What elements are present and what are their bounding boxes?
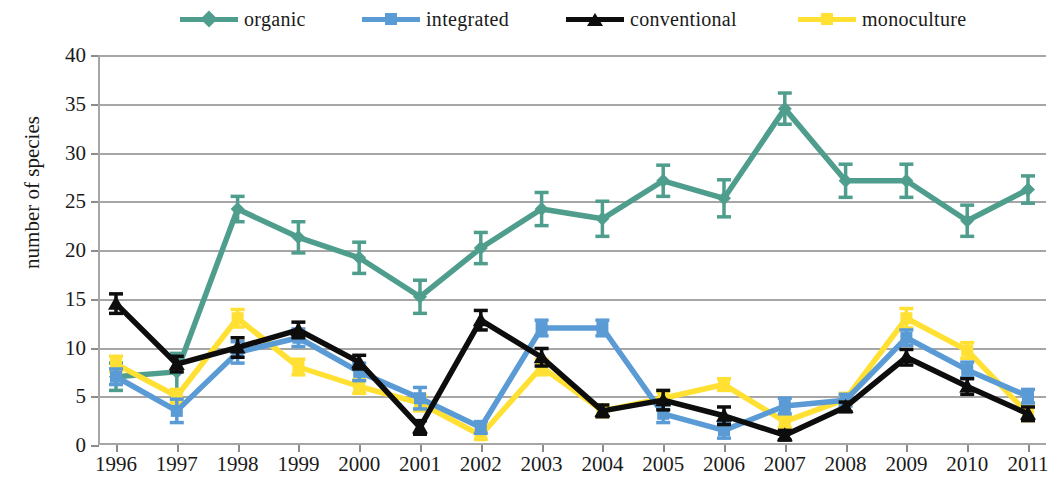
series-conventional xyxy=(108,294,1036,441)
x-axis-ticklabels: 1996199719981999200020012002200320042005… xyxy=(98,452,1046,478)
data-point-triangle xyxy=(473,312,489,326)
x-ticklabel: 2011 xyxy=(1007,452,1048,477)
x-tickmark xyxy=(1028,444,1030,452)
y-ticklabel: 20 xyxy=(65,238,86,263)
x-ticklabel: 2010 xyxy=(946,452,988,477)
data-point-square xyxy=(110,371,122,383)
y-ticklabel: 30 xyxy=(65,140,86,165)
y-ticklabel: 0 xyxy=(76,433,87,458)
x-ticklabel: 2008 xyxy=(825,452,867,477)
x-ticklabel: 2002 xyxy=(460,452,502,477)
legend-swatch-conventional-icon xyxy=(566,12,624,26)
series-integrated xyxy=(109,320,1035,438)
x-ticklabel: 1996 xyxy=(95,452,137,477)
legend-swatch-integrated-icon xyxy=(362,12,420,26)
x-ticklabel: 2001 xyxy=(399,452,441,477)
x-tickmark xyxy=(663,444,665,452)
data-point-square xyxy=(900,332,912,344)
x-ticklabel: 2009 xyxy=(885,452,927,477)
x-tickmark xyxy=(602,444,604,452)
data-point-square xyxy=(596,322,608,334)
series-layer xyxy=(98,55,1046,445)
y-ticklabel: 35 xyxy=(65,91,86,116)
legend-label-conventional: conventional xyxy=(630,8,737,31)
x-tickmark xyxy=(906,444,908,452)
legend-item-organic[interactable]: organic xyxy=(180,4,306,34)
legend-swatch-monoculture-icon xyxy=(798,12,856,26)
data-point-square xyxy=(232,312,244,324)
y-ticklabel: 15 xyxy=(65,286,86,311)
x-tickmark xyxy=(846,444,848,452)
series-line-conventional xyxy=(116,304,1028,436)
x-tickmark xyxy=(116,444,118,452)
x-tickmark xyxy=(542,444,544,452)
x-ticklabel: 2000 xyxy=(338,452,380,477)
x-tickmark xyxy=(481,444,483,452)
x-tickmark xyxy=(238,444,240,452)
legend-item-conventional[interactable]: conventional xyxy=(566,4,737,34)
data-point-square xyxy=(961,364,973,376)
data-point-square xyxy=(292,361,304,373)
y-ticklabel: 40 xyxy=(65,43,86,68)
x-ticklabel: 2004 xyxy=(581,452,623,477)
data-point-square xyxy=(779,400,791,412)
data-point-square xyxy=(536,322,548,334)
x-tickmark xyxy=(724,444,726,452)
x-tickmark xyxy=(298,444,300,452)
data-point-square xyxy=(900,312,912,324)
data-point-triangle xyxy=(898,349,914,363)
y-ticklabel: 10 xyxy=(65,335,86,360)
legend-item-integrated[interactable]: integrated xyxy=(362,4,509,34)
y-axis-ticklabels: 0510152025303540 xyxy=(40,40,92,450)
x-ticklabel: 1998 xyxy=(217,452,259,477)
legend-label-organic: organic xyxy=(244,8,306,31)
data-point-square xyxy=(961,344,973,356)
data-point-square xyxy=(779,416,791,428)
x-tickmark xyxy=(967,444,969,452)
y-axis-title-wrap: number of species xyxy=(0,0,40,478)
x-ticklabel: 2006 xyxy=(703,452,745,477)
plot-area xyxy=(98,55,1046,445)
legend-label-monoculture: monoculture xyxy=(862,8,966,31)
x-ticklabel: 2003 xyxy=(521,452,563,477)
y-ticklabel: 5 xyxy=(76,384,87,409)
data-point-square xyxy=(475,421,487,433)
y-ticklabel: 25 xyxy=(65,189,86,214)
x-tickmark xyxy=(420,444,422,452)
data-point-square xyxy=(414,392,426,404)
legend-item-monoculture[interactable]: monoculture xyxy=(798,4,966,34)
data-point-square xyxy=(171,405,183,417)
x-tickmark xyxy=(177,444,179,452)
x-ticklabel: 2005 xyxy=(642,452,684,477)
chart-container: organicintegratedconventionalmonoculture… xyxy=(0,0,1063,478)
y-tickmark xyxy=(91,445,99,447)
series-line-monoculture xyxy=(116,318,1028,435)
chart-legend: organicintegratedconventionalmonoculture xyxy=(0,0,1063,40)
legend-swatch-organic-icon xyxy=(180,12,238,26)
x-ticklabel: 1999 xyxy=(277,452,319,477)
legend-label-integrated: integrated xyxy=(426,8,509,31)
data-point-square xyxy=(718,379,730,391)
data-point-square xyxy=(1022,390,1034,402)
x-tickmark xyxy=(785,444,787,452)
data-point-triangle xyxy=(108,296,124,310)
x-ticklabel: 2007 xyxy=(764,452,806,477)
x-ticklabel: 1997 xyxy=(156,452,198,477)
x-tickmark xyxy=(359,444,361,452)
